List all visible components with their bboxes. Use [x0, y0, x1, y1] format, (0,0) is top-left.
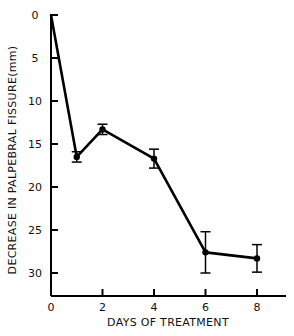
data-point [74, 154, 80, 160]
y-tick-label: 25 [28, 224, 42, 237]
x-tick-label: 8 [254, 301, 261, 314]
data-series [51, 15, 262, 273]
x-tick-label: 0 [48, 301, 55, 314]
y-tick-label: 20 [28, 181, 42, 194]
axes [51, 14, 286, 296]
data-point [151, 155, 157, 161]
data-point [99, 126, 105, 132]
y-tick-label: 5 [32, 52, 39, 65]
y-tick-label: 30 [28, 267, 42, 280]
x-tick-label: 6 [202, 301, 209, 314]
y-ticks: 051015202530 [28, 9, 58, 280]
x-ticks: 02468 [48, 289, 261, 314]
x-axis-label: DAYS OF TREATMENT [107, 316, 229, 329]
x-tick-label: 4 [151, 301, 158, 314]
y-tick-label: 15 [28, 138, 42, 151]
chart: 051015202530 02468 DAYS OF TREATMENT DEC… [0, 0, 294, 336]
data-point [202, 249, 208, 255]
x-tick-label: 2 [99, 301, 106, 314]
y-tick-label: 0 [32, 9, 39, 22]
data-point [254, 255, 260, 261]
y-axis-label: DECREASE IN PALPEBRAL FISSURE(mm) [6, 46, 19, 275]
y-tick-label: 10 [28, 95, 42, 108]
series-line [51, 15, 257, 258]
